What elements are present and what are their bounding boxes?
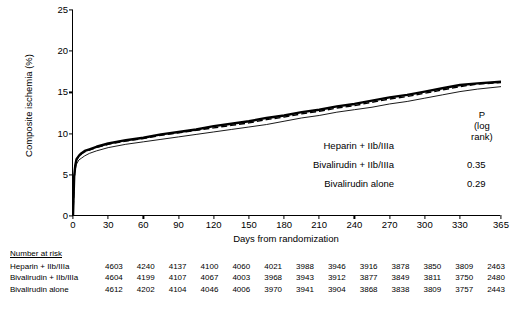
x-tick-label: 270	[382, 220, 398, 230]
x-tick-label: 210	[311, 220, 327, 230]
risk-cell: 4612	[98, 284, 130, 296]
risk-cell: 3916	[353, 261, 385, 273]
risk-cell: 4104	[162, 284, 194, 296]
risk-cell: 3809	[416, 284, 448, 296]
x-tick-mark	[283, 215, 284, 219]
x-tick-mark	[354, 215, 355, 219]
y-tick-label: 25	[57, 5, 68, 15]
risk-row-label: Bivalirudin + IIb/IIIa	[10, 272, 98, 284]
risk-cell: 4046	[194, 284, 226, 296]
legend-p-heading-line1: P	[471, 109, 493, 120]
y-tick-mark	[69, 133, 73, 134]
risk-cell: 3757	[448, 284, 480, 296]
risk-cell: 4603	[98, 261, 130, 273]
legend-item: Bivalirudin + IIb/IIIa0.35	[215, 156, 490, 175]
risk-cell: 3943	[289, 272, 321, 284]
x-tick-mark	[72, 215, 73, 219]
risk-cell: 4067	[194, 272, 226, 284]
risk-row-label: Bivalirudin alone	[10, 284, 98, 296]
x-tick-mark	[178, 215, 179, 219]
risk-cell: 3904	[321, 284, 353, 296]
legend-label: Heparin + IIb/IIIa	[324, 140, 395, 151]
risk-cell: 4199	[130, 272, 162, 284]
risk-row-label: Heparin + IIb/IIIa	[10, 261, 98, 273]
x-tick-mark	[500, 215, 501, 219]
risk-cell: 4006	[225, 284, 257, 296]
risk-cell: 2443	[480, 284, 512, 296]
risk-cell: 2463	[480, 261, 512, 273]
legend-p-value: 0.35	[467, 159, 486, 170]
y-tick-label: 20	[57, 46, 68, 56]
number-at-risk-table: Number at risk Heparin + IIb/IIIa4603424…	[10, 248, 512, 295]
table-row: Bivalirudin + IIb/IIIa460441994107406740…	[10, 272, 512, 284]
risk-cell: 3968	[257, 272, 289, 284]
risk-cell: 3941	[289, 284, 321, 296]
x-tick-mark	[459, 215, 460, 219]
risk-cell: 4202	[130, 284, 162, 296]
risk-cell: 3849	[385, 272, 417, 284]
risk-cell: 4240	[130, 261, 162, 273]
risk-cell: 3809	[448, 261, 480, 273]
risk-cell: 4107	[162, 272, 194, 284]
risk-table: Heparin + IIb/IIIa4603424041374100406040…	[10, 261, 512, 296]
risk-cell: 2480	[480, 272, 512, 284]
x-tick-mark	[108, 215, 109, 219]
risk-cell: 3850	[416, 261, 448, 273]
risk-cell: 3970	[257, 284, 289, 296]
legend: P (log rank) Heparin + IIb/IIIaBivalirud…	[215, 137, 490, 194]
y-tick-label: 5	[63, 170, 68, 180]
x-tick-mark	[424, 215, 425, 219]
risk-cell: 4604	[98, 272, 130, 284]
x-tick-label: 300	[417, 220, 433, 230]
risk-cell: 3868	[353, 284, 385, 296]
x-tick-label: 30	[103, 220, 114, 230]
number-at-risk-title: Number at risk	[10, 248, 512, 260]
y-tick-mark	[69, 92, 73, 93]
risk-cell: 4137	[162, 261, 194, 273]
risk-cell: 4003	[225, 272, 257, 284]
legend-p-value: 0.29	[467, 178, 486, 189]
x-tick-label: 60	[138, 220, 149, 230]
risk-cell: 4100	[194, 261, 226, 273]
x-tick-label: 365	[493, 220, 509, 230]
x-tick-label: 150	[241, 220, 257, 230]
risk-cell: 3838	[385, 284, 417, 296]
table-row: Heparin + IIb/IIIa4603424041374100406040…	[10, 261, 512, 273]
chart-figure: Composite ischemia (%) 05101520250306090…	[0, 0, 520, 312]
risk-cell: 3912	[321, 272, 353, 284]
risk-cell: 3878	[385, 261, 417, 273]
x-tick-mark	[319, 215, 320, 219]
x-tick-label: 330	[452, 220, 468, 230]
y-tick-label: 15	[57, 88, 68, 98]
x-tick-label: 120	[206, 220, 222, 230]
legend-item: Bivalirudin alone0.29	[215, 175, 490, 194]
risk-cell: 4060	[225, 261, 257, 273]
table-row: Bivalirudin alone46124202410440464006397…	[10, 284, 512, 296]
x-tick-label: 90	[173, 220, 184, 230]
legend-label: Bivalirudin alone	[324, 178, 394, 189]
y-axis-label: Composite ischemia (%)	[23, 26, 34, 186]
x-tick-mark	[143, 215, 144, 219]
y-tick-label: 10	[57, 129, 68, 139]
legend-label: Bivalirudin + IIb/IIIa	[313, 159, 394, 170]
risk-cell: 3877	[353, 272, 385, 284]
x-tick-label: 240	[346, 220, 362, 230]
y-tick-mark	[69, 174, 73, 175]
risk-cell: 3946	[321, 261, 353, 273]
y-tick-mark	[69, 51, 73, 52]
y-tick-label: 0	[63, 211, 68, 221]
x-tick-mark	[213, 215, 214, 219]
x-tick-mark	[248, 215, 249, 219]
x-tick-label: 180	[276, 220, 292, 230]
risk-cell: 3750	[448, 272, 480, 284]
risk-cell: 3988	[289, 261, 321, 273]
x-axis-label: Days from randomization	[72, 233, 500, 244]
risk-cell: 3811	[416, 272, 448, 284]
legend-item: Heparin + IIb/IIIa	[215, 137, 490, 156]
x-tick-mark	[389, 215, 390, 219]
x-tick-label: 0	[70, 220, 75, 230]
risk-cell: 4021	[257, 261, 289, 273]
y-tick-mark	[69, 9, 73, 10]
